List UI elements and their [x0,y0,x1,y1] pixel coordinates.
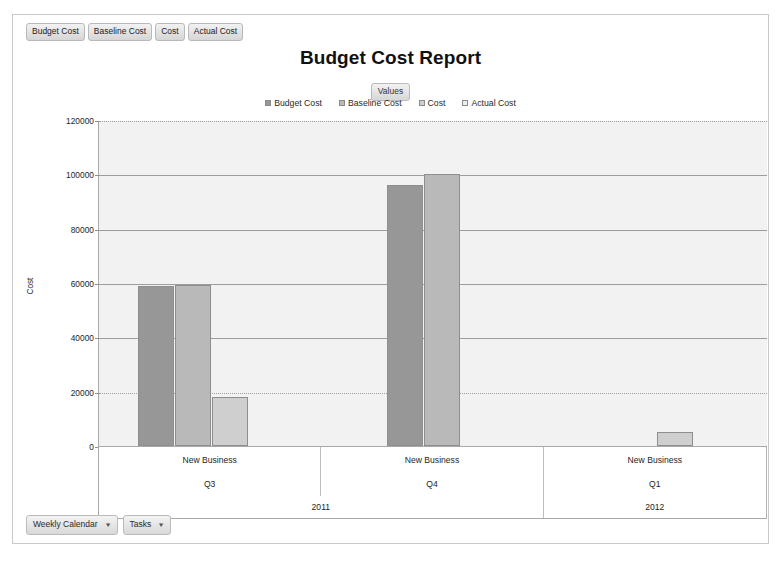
report-frame: Budget Cost Baseline Cost Cost Actual Co… [12,14,769,544]
chevron-down-icon: ▼ [104,522,111,528]
bar-baseline-cost[interactable] [424,174,460,446]
plot-area [98,121,767,447]
y-axis-tick-label: 100000 [34,170,94,180]
bar-cost[interactable] [212,397,248,446]
dropdown-tasks[interactable]: Tasks ▼ [123,515,172,535]
bar-group [138,121,248,446]
y-axis-tick-label: 60000 [34,279,94,289]
bar-group [387,121,460,446]
bar-group [657,121,693,446]
y-axis-tick-label: 20000 [34,388,94,398]
dropdown-weekly-calendar[interactable]: Weekly Calendar ▼ [26,515,118,535]
y-axis-tick-label: 40000 [34,333,94,343]
dropdown-tasks-label: Tasks [130,519,152,530]
category-label-project: New Business [321,447,543,472]
chevron-down-icon: ▼ [158,522,165,528]
category-axis: New BusinessNew BusinessNew Business Q3Q… [98,447,767,519]
category-label-quarter: Q3 [99,472,321,496]
bar-budget-cost[interactable] [138,286,174,446]
category-label-quarter: Q4 [321,472,543,496]
bar-cost[interactable] [657,432,693,446]
category-tier-quarter: Q3Q4Q1 [99,472,766,496]
dropdown-weekly-calendar-label: Weekly Calendar [33,519,98,530]
category-label-project: New Business [544,447,766,472]
category-label-year: 2012 [544,496,766,518]
category-tier-year: 20112012 [99,496,766,518]
bar-budget-cost[interactable] [387,185,423,446]
bars-layer [99,121,767,446]
category-label-project: New Business [99,447,321,472]
y-axis-tick-label: 0 [34,442,94,452]
y-axis-tick-label: 80000 [34,225,94,235]
category-tier-project: New BusinessNew BusinessNew Business [99,447,766,472]
y-axis-tick-label: 120000 [34,116,94,126]
bottom-toolbar: Weekly Calendar ▼ Tasks ▼ [26,515,171,535]
bar-baseline-cost[interactable] [175,285,211,446]
category-label-quarter: Q1 [544,472,766,496]
